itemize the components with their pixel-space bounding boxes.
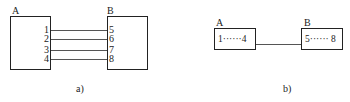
wire-3-7 [51,50,107,51]
box-a-label: A [12,6,19,16]
caption-a: a) [76,84,84,94]
box-b-label: B [107,6,114,16]
box-a-label-b: A [216,18,223,28]
box-b-pin-range: 5······ 8 [305,34,336,44]
pin-4: 4 [44,54,49,64]
caption-b: b) [283,84,291,94]
box-a-pin-range: 1······4 [218,34,246,44]
wire-1-5 [51,30,107,31]
pin-2: 2 [44,34,49,44]
pin-6: 6 [109,34,114,44]
wire-2-6 [51,39,107,40]
wire-4-8 [51,59,107,60]
pin-8: 8 [109,54,114,64]
bus-line [256,44,301,45]
box-b-label-b: B [304,18,311,28]
